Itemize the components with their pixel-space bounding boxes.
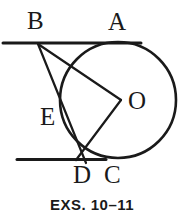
point-label-d: D — [73, 162, 91, 187]
figure-caption: EXS. 10–11 — [0, 196, 184, 213]
point-label-b: B — [27, 8, 44, 33]
point-label-a: A — [108, 9, 126, 34]
point-label-c: C — [104, 162, 121, 187]
point-label-e: E — [40, 104, 55, 129]
point-label-o: O — [128, 88, 146, 113]
geometry-figure: B A O E D C EXS. 10–11 — [0, 0, 184, 220]
segment-o-to-d — [76, 100, 121, 160]
